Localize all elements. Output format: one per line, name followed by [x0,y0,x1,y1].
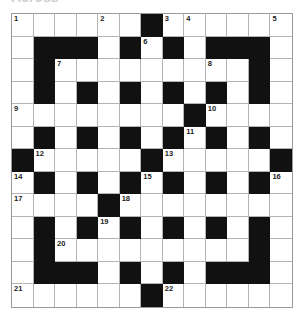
crossword-cell[interactable] [184,59,206,82]
crossword-cell[interactable] [227,14,249,37]
crossword-cell[interactable] [206,14,228,37]
crossword-cell[interactable] [12,59,34,82]
crossword-cell[interactable] [98,59,120,82]
crossword-cell[interactable] [77,284,99,307]
crossword-cell[interactable] [98,172,120,195]
crossword-cell[interactable] [98,149,120,172]
crossword-cell[interactable]: 7 [55,59,77,82]
crossword-cell[interactable] [55,172,77,195]
crossword-cell[interactable] [77,149,99,172]
crossword-cell[interactable] [227,284,249,307]
crossword-cell[interactable] [184,239,206,262]
crossword-cell[interactable] [77,14,99,37]
crossword-cell[interactable] [12,127,34,150]
crossword-cell[interactable] [77,239,99,262]
crossword-cell[interactable]: 1 [12,14,34,37]
crossword-cell[interactable] [227,149,249,172]
crossword-cell[interactable] [270,59,292,82]
crossword-cell[interactable] [141,194,163,217]
crossword-cell[interactable] [249,14,271,37]
crossword-cell[interactable]: 14 [12,172,34,195]
crossword-cell[interactable]: 10 [206,104,228,127]
crossword-cell[interactable] [120,104,142,127]
crossword-cell[interactable] [120,59,142,82]
crossword-cell[interactable] [227,194,249,217]
crossword-cell[interactable] [270,217,292,240]
crossword-cell[interactable] [34,104,56,127]
crossword-cell[interactable] [206,239,228,262]
crossword-cell[interactable] [77,59,99,82]
crossword-cell[interactable] [98,262,120,285]
crossword-cell[interactable]: 6 [141,37,163,60]
crossword-cell[interactable] [184,82,206,105]
crossword-cell[interactable] [55,217,77,240]
crossword-cell[interactable]: 20 [55,239,77,262]
crossword-cell[interactable]: 16 [270,172,292,195]
crossword-cell[interactable] [12,82,34,105]
crossword-cell[interactable] [270,82,292,105]
crossword-cell[interactable] [141,127,163,150]
crossword-cell[interactable] [77,104,99,127]
crossword-cell[interactable] [163,59,185,82]
crossword-cell[interactable] [98,239,120,262]
crossword-cell[interactable] [141,239,163,262]
crossword-cell[interactable] [55,104,77,127]
crossword-cell[interactable] [163,104,185,127]
crossword-cell[interactable]: 4 [184,14,206,37]
crossword-cell[interactable] [227,82,249,105]
crossword-cell[interactable]: 2 [98,14,120,37]
crossword-cell[interactable] [270,194,292,217]
crossword-cell[interactable]: 8 [206,59,228,82]
crossword-cell[interactable] [184,217,206,240]
crossword-cell[interactable] [270,104,292,127]
crossword-cell[interactable] [120,14,142,37]
crossword-cell[interactable] [98,37,120,60]
crossword-cell[interactable]: 17 [12,194,34,217]
crossword-cell[interactable] [163,194,185,217]
crossword-cell[interactable] [141,104,163,127]
crossword-cell[interactable] [98,82,120,105]
crossword-cell[interactable] [163,239,185,262]
crossword-cell[interactable] [120,239,142,262]
crossword-cell[interactable] [184,194,206,217]
crossword-cell[interactable] [184,37,206,60]
crossword-cell[interactable]: 15 [141,172,163,195]
crossword-cell[interactable] [141,262,163,285]
crossword-cell[interactable] [249,194,271,217]
crossword-cell[interactable] [55,14,77,37]
crossword-cell[interactable] [270,239,292,262]
crossword-cell[interactable] [270,37,292,60]
crossword-cell[interactable] [270,284,292,307]
crossword-cell[interactable] [184,284,206,307]
crossword-cell[interactable] [227,127,249,150]
crossword-cell[interactable]: 5 [270,14,292,37]
crossword-cell[interactable] [249,284,271,307]
crossword-cell[interactable]: 18 [120,194,142,217]
crossword-cell[interactable] [270,262,292,285]
crossword-cell[interactable] [206,284,228,307]
crossword-cell[interactable] [77,194,99,217]
crossword-cell[interactable] [12,217,34,240]
crossword-cell[interactable] [270,127,292,150]
crossword-cell[interactable] [12,37,34,60]
crossword-cell[interactable] [227,172,249,195]
crossword-cell[interactable]: 19 [98,217,120,240]
crossword-cell[interactable]: 9 [12,104,34,127]
crossword-cell[interactable] [55,149,77,172]
crossword-cell[interactable] [98,104,120,127]
crossword-cell[interactable] [141,59,163,82]
crossword-cell[interactable] [249,104,271,127]
crossword-cell[interactable] [55,194,77,217]
crossword-cell[interactable] [227,59,249,82]
crossword-cell[interactable] [98,127,120,150]
crossword-cell[interactable] [184,149,206,172]
crossword-cell[interactable] [141,217,163,240]
crossword-cell[interactable] [141,82,163,105]
crossword-cell[interactable] [249,149,271,172]
crossword-cell[interactable] [206,149,228,172]
crossword-cell[interactable]: 13 [163,149,185,172]
crossword-cell[interactable] [184,262,206,285]
crossword-cell[interactable] [120,149,142,172]
crossword-cell[interactable]: 12 [34,149,56,172]
crossword-cell[interactable] [55,284,77,307]
